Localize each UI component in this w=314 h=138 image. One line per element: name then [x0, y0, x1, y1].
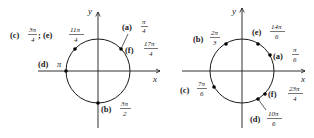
left-tag-b: (b) — [101, 104, 112, 114]
right-num-c: 7π — [198, 80, 206, 88]
left-num-a: π — [142, 18, 146, 26]
right-y-label: y — [231, 6, 236, 16]
left-den-b: 2 — [123, 110, 127, 118]
left-tag-d: (d) — [38, 59, 49, 69]
right-tag-b: (b) — [193, 34, 204, 44]
right-point-23pi-over-4 — [263, 92, 267, 96]
right-point-2pi-over-3 — [224, 42, 228, 46]
left-tag-c: (c) — [10, 30, 20, 40]
right-den-b: 3 — [212, 39, 217, 47]
left-diagram: y x (a) π 4 (f) 17π 4 (c) 3π 4 ; (e) 11π… — [10, 6, 160, 128]
left-val-d: π — [57, 59, 62, 69]
right-tag-e: (e) — [252, 27, 262, 37]
left-point-3pi-over-4 — [73, 47, 77, 51]
right-den-d: 6 — [272, 120, 276, 128]
right-tag-a: (a) — [273, 51, 283, 61]
right-point-pi-over-6 — [268, 53, 272, 57]
left-point-3pi-over-2 — [96, 101, 100, 105]
right-leader-d — [258, 99, 266, 110]
right-den-f: 4 — [293, 95, 297, 103]
right-num-e: 14π — [271, 23, 282, 31]
left-y-label: y — [87, 6, 92, 16]
left-separator: ; — [38, 30, 41, 40]
left-tag-a: (a) — [122, 22, 132, 32]
right-point-14pi-over-6 — [256, 42, 260, 46]
right-num-d: 10π — [268, 110, 279, 118]
right-x-label: x — [300, 74, 305, 84]
right-point-7pi-over-6 — [212, 85, 216, 89]
right-tag-d: (d) — [250, 114, 261, 124]
right-num-f: 23π — [289, 85, 300, 93]
left-num-b: 3π — [120, 100, 129, 108]
unit-circle-figure: y x (a) π 4 (f) 17π 4 (c) 3π 4 ; (e) 11π… — [0, 0, 314, 138]
left-tag-f: (f) — [125, 45, 134, 55]
left-point-pi — [64, 69, 68, 73]
right-tag-c: (c) — [180, 85, 190, 95]
right-num-a: π — [293, 46, 297, 54]
left-x-label: x — [152, 74, 157, 84]
right-den-e: 6 — [275, 33, 279, 41]
left-den-c: 4 — [31, 36, 35, 44]
left-tag-e: (e) — [43, 30, 53, 40]
right-num-b: 2π — [211, 29, 219, 37]
right-den-c: 6 — [200, 90, 204, 98]
left-den-f: 4 — [149, 50, 153, 58]
right-tag-f: (f) — [268, 89, 277, 99]
left-den-e: 4 — [74, 36, 78, 44]
right-diagram: y x (b) 2π 3 (e) 14π 6 (a) π 6 (c) 7π 6 … — [180, 6, 305, 128]
right-den-a: 6 — [293, 56, 297, 64]
left-num-e: 11π — [70, 26, 80, 34]
left-num-c: 3π — [28, 26, 37, 34]
left-den-a: 4 — [142, 27, 146, 35]
left-num-f: 17π — [144, 40, 155, 48]
